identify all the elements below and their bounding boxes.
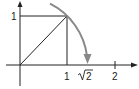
y-label-1: 1 bbox=[11, 11, 17, 22]
sqrt2-diagram: 1 1 2 2 bbox=[0, 0, 139, 89]
x-label-1: 1 bbox=[64, 71, 70, 82]
y-axis-arrow-icon bbox=[18, 1, 23, 7]
x-label-sqrt2-radicand: 2 bbox=[86, 71, 92, 82]
x-axis-arrow-icon bbox=[131, 63, 138, 68]
square-diagonal bbox=[20, 16, 67, 65]
x-label-2: 2 bbox=[112, 71, 118, 82]
arc-arrowhead-icon bbox=[84, 54, 92, 64]
rotation-arc bbox=[50, 4, 87, 56]
